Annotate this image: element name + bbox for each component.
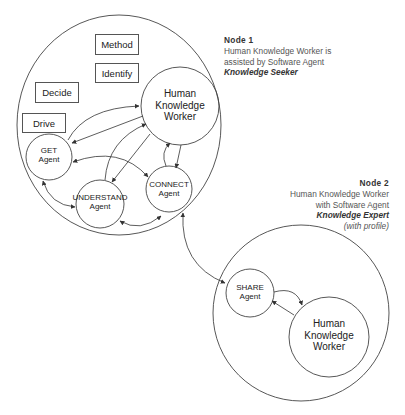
node2-desc-line-1: Human Knowledge Worker xyxy=(290,189,389,200)
node2-hkw-label: Human Knowledge Worker xyxy=(290,318,368,353)
hkw-line-2: Knowledge xyxy=(141,100,219,112)
identify-box: Identify xyxy=(95,63,139,83)
drive-box: Drive xyxy=(22,113,66,133)
method-box: Method xyxy=(95,34,139,55)
node2-desc-line-2: with Software Agent xyxy=(290,200,389,211)
node1-note: Node 1 Human Knowledge Worker is assiste… xyxy=(224,35,331,78)
node2-role: Knowledge Expert xyxy=(290,210,389,221)
share-agent-line-2: Agent xyxy=(226,292,274,301)
node1-desc-line-2: assisted by Software Agent xyxy=(224,57,331,68)
node1-desc-line-1: Human Knowledge Worker is xyxy=(224,46,331,57)
node2-title: Node 2 xyxy=(290,178,389,189)
share-agent-line-1: SHARE xyxy=(226,283,274,292)
node2-note: Node 2 Human Knowledge Worker with Softw… xyxy=(290,178,389,232)
get-agent-line-2: Agent xyxy=(26,155,72,164)
node2-boundary xyxy=(213,225,389,401)
node1-role: Knowledge Seeker xyxy=(224,67,331,78)
node1-hkw-label: Human Knowledge Worker xyxy=(141,88,219,123)
connect-agent-line-2: Agent xyxy=(139,189,199,198)
hkw2-line-1: Human xyxy=(290,318,368,330)
node1-title: Node 1 xyxy=(224,35,331,46)
share-agent-label: SHARE Agent xyxy=(226,283,274,301)
hkw-line-1: Human xyxy=(141,88,219,100)
get-agent-line-1: GET xyxy=(26,146,72,155)
node2-profile: (with profile) xyxy=(290,221,389,232)
understand-agent-line-2: Agent xyxy=(65,202,135,211)
understand-agent-line-1: UNDERSTAND xyxy=(65,193,135,202)
understand-agent-label: UNDERSTAND Agent xyxy=(65,193,135,211)
hkw-line-3: Worker xyxy=(141,111,219,123)
decide-box: Decide xyxy=(35,82,79,103)
connect-agent-line-1: CONNECT xyxy=(139,180,199,189)
hkw2-line-2: Knowledge xyxy=(290,330,368,342)
hkw2-line-3: Worker xyxy=(290,341,368,353)
get-agent-label: GET Agent xyxy=(26,146,72,164)
connect-agent-label: CONNECT Agent xyxy=(139,180,199,198)
